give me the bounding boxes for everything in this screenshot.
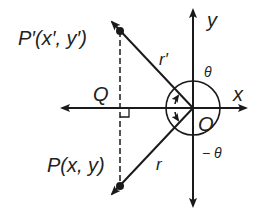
ray-r [112, 108, 193, 194]
rotation-arrow-up-icon [175, 96, 178, 104]
label-y-axis: y [205, 9, 218, 31]
label-q: Q [93, 83, 109, 105]
label-p-prime: P′(x′, y′) [18, 27, 87, 49]
label-origin: O [198, 113, 214, 135]
ray-r-prime [112, 22, 193, 108]
label-r: r [156, 155, 163, 174]
label-x-axis: x [232, 83, 244, 105]
rotation-arrow-down-icon [175, 112, 178, 120]
label-r-prime: r′ [159, 50, 169, 69]
label-theta: θ [204, 64, 212, 80]
reflection-diagram: P′(x′, y′) P(x, y) Q O x y r′ r θ − θ [0, 0, 264, 216]
label-p: P(x, y) [47, 154, 105, 176]
right-angle-marker [120, 108, 129, 117]
label-neg-theta: − θ [202, 145, 222, 161]
point-p-prime [116, 27, 124, 35]
point-p [116, 182, 124, 190]
